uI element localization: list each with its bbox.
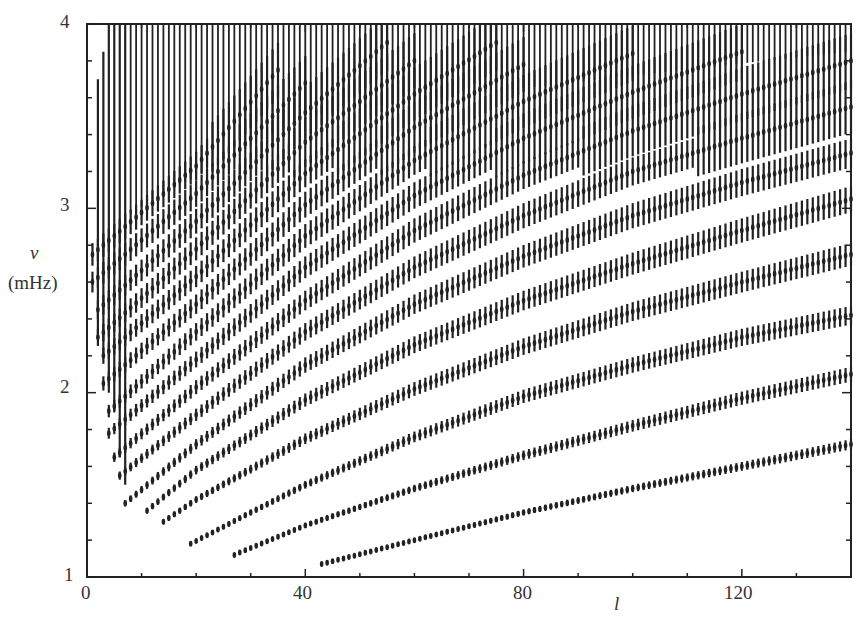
x-tick-label-120: 120 bbox=[724, 582, 753, 604]
y-tick-label-3: 3 bbox=[60, 194, 70, 216]
ridge-4 bbox=[162, 243, 853, 525]
x-tick-label-0: 0 bbox=[81, 582, 91, 604]
y-axis-unit: (mHz) bbox=[8, 272, 58, 294]
x-axis-title: l bbox=[614, 593, 619, 615]
y-tick-label-4: 4 bbox=[60, 11, 70, 33]
x-tick-label-40: 40 bbox=[293, 582, 312, 604]
x-tick-label-80: 80 bbox=[513, 582, 532, 604]
ridge-1 bbox=[320, 439, 853, 567]
y-tick-label-1: 1 bbox=[64, 564, 74, 586]
y-axis-symbol: ν bbox=[30, 242, 38, 264]
ridge-15 bbox=[91, 56, 307, 292]
ridge-6 bbox=[123, 138, 852, 506]
y-tick-label-2: 2 bbox=[60, 376, 70, 398]
ridge-11 bbox=[102, 37, 526, 390]
plot-area bbox=[0, 0, 863, 620]
mode-ridges bbox=[91, 24, 853, 567]
